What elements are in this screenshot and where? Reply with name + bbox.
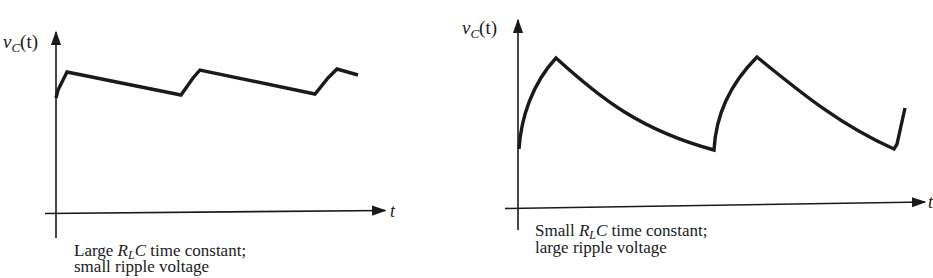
x-axis-label: t <box>928 192 933 212</box>
waveform-small-ripple <box>56 69 358 98</box>
caption-line-2: small ripple voltage <box>74 257 209 276</box>
panel-large-time-constant: vC(t) t Large RLC time constant; small r… <box>3 31 396 276</box>
x-axis <box>505 202 925 209</box>
waveform-large-ripple <box>519 57 905 150</box>
ripple-voltage-diagram: vC(t) t Large RLC time constant; small r… <box>0 0 933 278</box>
x-axis-label: t <box>390 201 396 221</box>
y-axis-label: vC(t) <box>3 31 38 55</box>
caption-line-2: large ripple voltage <box>535 238 667 257</box>
panel-small-time-constant: vC(t) t Small RLC time constant; large r… <box>462 17 933 257</box>
y-axis-label: vC(t) <box>462 17 497 41</box>
x-axis <box>45 211 385 214</box>
